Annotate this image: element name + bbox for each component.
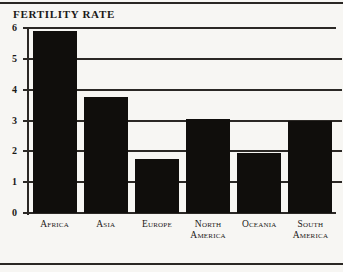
plot-area [29, 28, 336, 213]
y-axis-tick-label: 2 [0, 146, 17, 156]
page-rule-top [0, 2, 343, 4]
page-rule-bottom [0, 263, 343, 265]
x-axis-label-line: America [179, 230, 238, 241]
bar [288, 121, 332, 214]
y-axis-tick-right [336, 181, 342, 183]
y-axis-tick-label: 0 [0, 208, 17, 218]
y-axis-tick-label: 5 [0, 54, 17, 64]
y-axis-tick-right [336, 89, 342, 91]
y-axis-tick-right [336, 58, 342, 60]
gridline [29, 27, 336, 29]
bar [186, 119, 230, 213]
x-axis-label-line: America [281, 230, 340, 241]
chart-page: FERTILITY RATE 0123456 AfricaAsiaEuropeN… [0, 0, 343, 272]
y-axis-tick-label: 3 [0, 116, 17, 126]
bar [237, 153, 281, 213]
bar [135, 159, 179, 213]
y-axis-tick-right [336, 120, 342, 122]
chart-title: FERTILITY RATE [13, 8, 115, 20]
y-axis-tick-label: 6 [0, 23, 17, 33]
bar [33, 31, 77, 213]
x-axis-label-line: South [281, 219, 340, 230]
x-axis-category-label: SouthAmerica [281, 219, 340, 241]
y-axis-tick-right [336, 150, 342, 152]
bar [84, 97, 128, 213]
y-axis-tick-label: 1 [0, 177, 17, 187]
y-axis-tick-label: 4 [0, 85, 17, 95]
